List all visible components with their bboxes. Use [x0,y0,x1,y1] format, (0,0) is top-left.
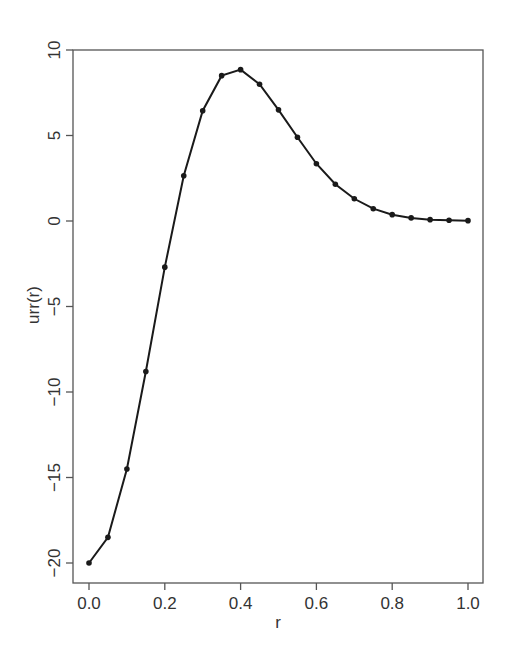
data-point [86,560,92,566]
data-point [352,196,358,202]
y-tick-label: −20 [45,549,64,578]
data-point [238,67,244,73]
y-tick-label: −10 [45,378,64,407]
data-point [389,212,395,218]
data-point [181,173,187,179]
y-axis: −20−15−10−50510 [45,41,73,578]
y-tick-label: −5 [45,297,64,316]
data-point [276,107,282,113]
data-point [370,206,376,212]
data-point [333,181,339,187]
data-point [105,535,111,541]
data-point [314,161,320,167]
x-tick-label: 0.8 [380,594,404,613]
x-axis-label: r [275,613,281,632]
data-point [124,466,130,472]
y-tick-label: −15 [45,463,64,492]
data-point [200,108,206,114]
y-axis-label: urr(r) [24,286,43,324]
x-tick-label: 1.0 [456,594,480,613]
x-tick-label: 0.4 [229,594,253,613]
data-point [465,218,471,224]
data-line [89,70,468,563]
plot-frame [73,50,483,583]
y-tick-label: 0 [45,216,64,225]
data-point [408,215,414,221]
line-chart: −20−15−10−50510 0.00.20.40.60.81.0 r urr… [0,0,513,659]
data-point [162,264,168,270]
data-point [257,81,263,87]
data-point [219,73,225,79]
y-tick-label: 10 [45,41,64,60]
data-points [86,67,471,566]
data-point [295,134,301,140]
x-axis: 0.00.20.40.60.81.0 [77,583,480,613]
data-point [446,218,452,224]
x-tick-label: 0.0 [77,594,101,613]
x-tick-label: 0.6 [305,594,329,613]
y-tick-label: 5 [45,131,64,140]
data-point [427,217,433,223]
data-point [143,369,149,375]
x-tick-label: 0.2 [153,594,177,613]
